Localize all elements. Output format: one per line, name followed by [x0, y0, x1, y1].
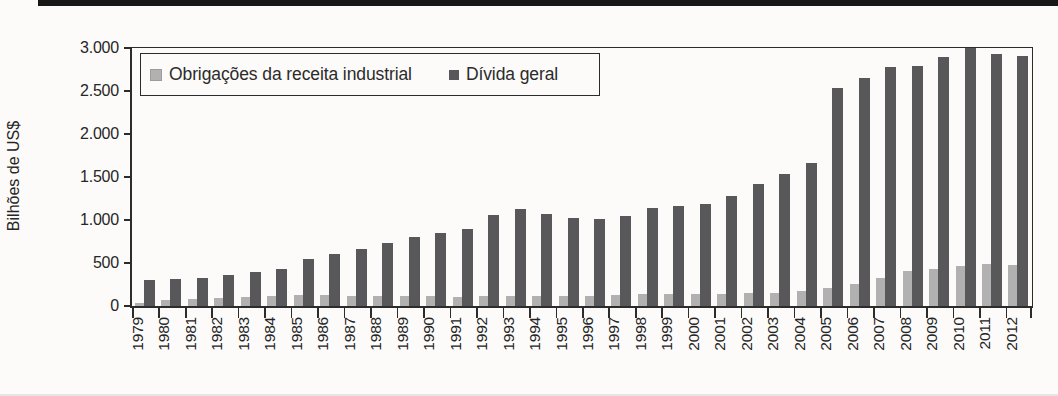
- x-label-1997: 1997: [605, 317, 623, 367]
- bar-obrigacoes-2002: [744, 293, 753, 306]
- year-slot-1986: [317, 254, 343, 306]
- bar-obrigacoes-1997: [611, 295, 620, 306]
- x-label-text: 2012: [1003, 317, 1021, 351]
- y-tick-label: 2.500: [80, 82, 119, 100]
- bar-obrigacoes-1998: [638, 294, 647, 306]
- bar-obrigacoes-2007: [876, 278, 885, 306]
- x-label-1999: 1999: [658, 317, 676, 367]
- x-label-text: 1980: [155, 317, 173, 351]
- year-slot-2002: [741, 184, 767, 306]
- bar-divida-geral-1997: [620, 216, 631, 306]
- y-tick-mark: [124, 219, 130, 221]
- x-label-text: 2001: [711, 317, 729, 351]
- x-label-text: 1991: [447, 317, 465, 351]
- y-tick-mark: [124, 305, 130, 307]
- legend-box: Obrigações da receita industrial Dívida …: [140, 53, 600, 96]
- bar-obrigacoes-1989: [400, 296, 409, 306]
- year-slot-2006: [847, 78, 873, 306]
- bar-divida-geral-2001: [726, 196, 737, 306]
- year-slot-1981: [185, 278, 211, 306]
- x-label-text: 1985: [288, 317, 306, 351]
- x-label-2002: 2002: [738, 317, 756, 367]
- bar-obrigacoes-1995: [559, 296, 568, 306]
- bar-obrigacoes-1999: [664, 294, 673, 306]
- x-label-text: 2011: [976, 317, 994, 350]
- year-slot-2012: [1005, 56, 1031, 306]
- x-label-2009: 2009: [923, 317, 941, 367]
- x-label-1993: 1993: [500, 317, 518, 367]
- x-label-text: 2004: [791, 317, 809, 351]
- year-slot-1997: [608, 216, 634, 306]
- year-slot-2010: [953, 48, 979, 306]
- year-slot-1983: [238, 272, 264, 306]
- x-label-text: 2008: [897, 317, 915, 351]
- bar-obrigacoes-1992: [479, 296, 488, 306]
- bar-obrigacoes-1993: [506, 296, 515, 306]
- x-label-1987: 1987: [341, 317, 359, 367]
- y-tick-label: 1.500: [80, 168, 119, 186]
- bar-obrigacoes-1979: [135, 303, 144, 306]
- bar-obrigacoes-2010: [956, 266, 965, 306]
- y-tick-label: 3.000: [80, 39, 119, 57]
- x-label-2012: 2012: [1003, 317, 1021, 367]
- x-label-text: 1997: [605, 317, 623, 351]
- x-label-2011: 2011: [976, 317, 994, 367]
- x-label-text: 1998: [632, 317, 650, 351]
- year-slot-2011: [979, 54, 1005, 306]
- year-slot-1980: [158, 279, 184, 306]
- bar-divida-geral-1990: [435, 233, 446, 306]
- x-label-1991: 1991: [447, 317, 465, 367]
- x-label-2003: 2003: [764, 317, 782, 367]
- bar-divida-geral-1985: [303, 259, 314, 306]
- bar-divida-geral-1993: [515, 209, 526, 306]
- scanned-bar-chart-figure: Bilhões de US$ 05001.0001.5002.0002.5003…: [0, 0, 1058, 396]
- x-label-2008: 2008: [897, 317, 915, 367]
- legend-label-obrigacoes: Obrigações da receita industrial: [169, 64, 412, 85]
- legend-label-divida: Dívida geral: [466, 64, 558, 85]
- y-tick-label: 500: [93, 254, 119, 272]
- year-slot-1993: [503, 209, 529, 306]
- x-axis-labels: 1979198019811982198319841985198619871988…: [130, 317, 1030, 377]
- x-label-text: 1988: [367, 317, 385, 351]
- bar-obrigacoes-1985: [294, 295, 303, 306]
- bar-obrigacoes-1996: [585, 296, 594, 306]
- x-label-1986: 1986: [314, 317, 332, 367]
- y-tick-mark: [124, 90, 130, 92]
- y-tick-mark: [124, 262, 130, 264]
- year-slot-1990: [423, 233, 449, 306]
- x-label-text: 1995: [553, 317, 571, 351]
- bar-divida-geral-2007: [885, 67, 896, 306]
- bar-obrigacoes-2012: [1008, 265, 1017, 306]
- x-label-text: 1984: [261, 317, 279, 351]
- bar-obrigacoes-2000: [691, 294, 700, 306]
- bar-divida-geral-1983: [250, 272, 261, 306]
- year-slot-1991: [450, 229, 476, 306]
- x-label-1981: 1981: [182, 317, 200, 367]
- x-label-1989: 1989: [394, 317, 412, 367]
- bar-obrigacoes-2006: [850, 284, 859, 306]
- y-tick-mark: [124, 47, 130, 49]
- x-label-text: 1986: [314, 317, 332, 351]
- bar-divida-geral-1979: [144, 280, 155, 306]
- bar-divida-geral-2011: [991, 54, 1002, 306]
- bar-obrigacoes-1984: [267, 296, 276, 306]
- x-label-text: 2005: [817, 317, 835, 351]
- x-label-1984: 1984: [261, 317, 279, 367]
- bar-divida-geral-2004: [806, 163, 817, 306]
- x-label-1996: 1996: [579, 317, 597, 367]
- x-label-1979: 1979: [129, 317, 147, 367]
- x-label-1988: 1988: [367, 317, 385, 367]
- bar-divida-geral-2010: [965, 48, 976, 306]
- y-tick-label: 0: [110, 297, 119, 315]
- bar-obrigacoes-1981: [188, 299, 197, 306]
- bar-divida-geral-1984: [276, 269, 287, 306]
- year-slot-1999: [661, 206, 687, 306]
- bar-divida-geral-1980: [170, 279, 181, 306]
- bar-divida-geral-1988: [382, 243, 393, 306]
- legend-swatch-dark-icon: [449, 70, 459, 80]
- x-label-text: 1983: [235, 317, 253, 351]
- bar-divida-geral-1995: [568, 218, 579, 306]
- x-label-1994: 1994: [526, 317, 544, 367]
- x-label-2010: 2010: [950, 317, 968, 367]
- legend-swatch-light-icon: [150, 69, 162, 81]
